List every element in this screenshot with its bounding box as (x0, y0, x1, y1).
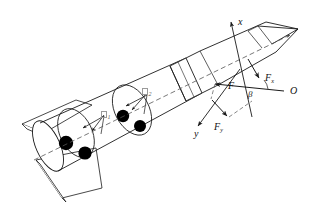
rocket-force-diagram (0, 0, 312, 217)
omega-2-subscript: 2 (148, 91, 152, 97)
stage-band (170, 58, 202, 101)
force-y-subscript: y (220, 126, 223, 133)
origin-label: O (290, 86, 297, 96)
angle-beta-label: β (248, 90, 252, 99)
mass-2b (134, 120, 146, 132)
omega-2-label: 2 (142, 87, 152, 97)
axis-x-label: x (238, 17, 242, 27)
force-y-label: Fy (214, 122, 223, 133)
force-x-label: Fx (265, 73, 274, 84)
force-y-vector (212, 100, 227, 116)
mass-1b (78, 146, 91, 159)
axis-x (231, 22, 252, 117)
figure-canvas: x y O F Fx Fy β 1 2 (0, 0, 312, 217)
mass-1a (59, 136, 73, 150)
force-label: F (228, 81, 234, 91)
mass-2a (117, 110, 129, 122)
axis-y (198, 69, 240, 126)
force-x-vector (248, 59, 259, 78)
omega-1-label: 1 (101, 110, 111, 120)
omega-1-subscript: 1 (107, 114, 111, 120)
force-x-subscript: x (271, 77, 274, 84)
axis-y-label: y (194, 129, 198, 139)
